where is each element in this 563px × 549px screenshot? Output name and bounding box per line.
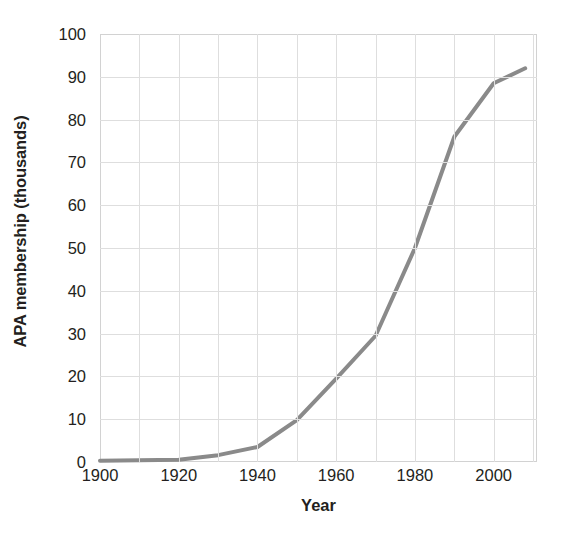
gridline-horizontal <box>100 77 537 78</box>
gridline-horizontal <box>100 419 537 420</box>
gridline-horizontal <box>100 205 537 206</box>
gridline-horizontal <box>100 376 537 377</box>
series-path <box>100 68 525 460</box>
gridline-horizontal <box>100 291 537 292</box>
gridline-horizontal <box>100 120 537 121</box>
x-tick-label: 1920 <box>160 466 197 484</box>
plot-area <box>100 34 537 462</box>
x-axis-tick-labels: 190019201940196019802000 <box>0 466 563 492</box>
x-tick-label: 1940 <box>239 466 276 484</box>
y-tick-label: 70 <box>40 154 86 171</box>
y-tick-label: 80 <box>40 111 86 128</box>
y-tick-label: 50 <box>40 240 86 257</box>
y-tick-label: 100 <box>40 26 86 43</box>
x-tick-label: 1960 <box>318 466 355 484</box>
y-tick-label: 20 <box>40 368 86 385</box>
y-tick-label: 60 <box>40 197 86 214</box>
gridline-horizontal <box>100 248 537 249</box>
gridline-horizontal <box>100 334 537 335</box>
x-tick-label: 1900 <box>82 466 119 484</box>
y-axis-title: APA membership (thousands) <box>0 0 40 462</box>
y-tick-label: 10 <box>40 411 86 428</box>
y-tick-label: 40 <box>40 283 86 300</box>
x-axis-title: Year <box>100 496 537 515</box>
x-tick-label: 2000 <box>475 466 512 484</box>
chart-figure: APA membership (thousands) 0102030405060… <box>0 0 563 549</box>
y-tick-label: 90 <box>40 69 86 86</box>
y-axis-title-text: APA membership (thousands) <box>11 115 30 347</box>
gridline-horizontal <box>100 162 537 163</box>
x-tick-label: 1980 <box>397 466 434 484</box>
y-tick-label: 30 <box>40 325 86 342</box>
